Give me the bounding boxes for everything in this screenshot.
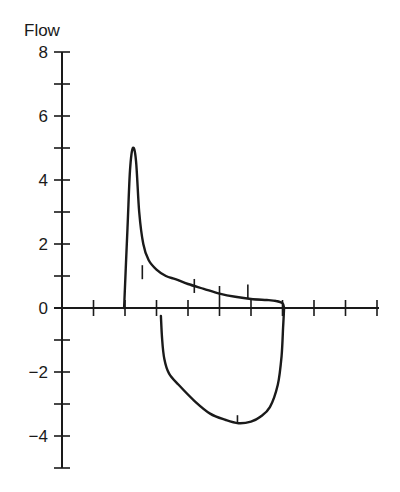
axes xyxy=(54,52,379,468)
y-tick-label: 4 xyxy=(39,171,48,190)
inspiratory-curve xyxy=(161,308,284,423)
data-series xyxy=(124,148,284,424)
expiratory-curve xyxy=(124,148,284,308)
y-tick-label: 8 xyxy=(39,43,48,62)
y-tick-label: 0 xyxy=(39,299,48,318)
y-tick-label: 6 xyxy=(39,107,48,126)
y-tick-label: −4 xyxy=(29,427,48,446)
y-tick-label: 2 xyxy=(39,235,48,254)
y-axis-title: Flow xyxy=(24,21,61,40)
y-tick-label: −2 xyxy=(29,363,48,382)
flow-chart: Flow 86420−2−4 xyxy=(0,0,400,492)
y-tick-labels: 86420−2−4 xyxy=(29,43,48,446)
